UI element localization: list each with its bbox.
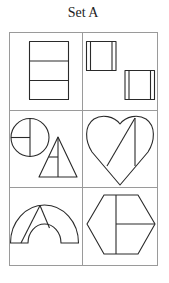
cell-circle-and-triangle: [11, 119, 77, 178]
cell-arch-divided: [11, 205, 79, 243]
cell-heart-divided: [87, 116, 154, 185]
figure-grid: [0, 0, 169, 283]
cell-rectangle-three-parts: [30, 42, 69, 100]
cell-two-squares-with-strips: [87, 42, 155, 100]
cell-hexagon-divided: [87, 195, 155, 254]
